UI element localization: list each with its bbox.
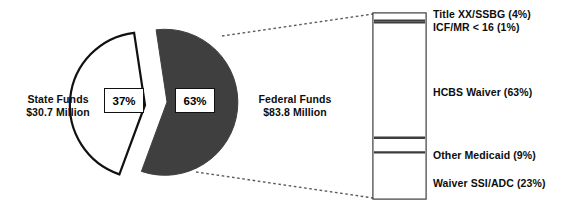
pie-label-federal-funds: Federal Funds $83.8 Million xyxy=(243,93,347,119)
connector-line-bottom xyxy=(196,172,373,198)
pie-percent-box-state-funds: 37% xyxy=(104,88,144,113)
bar-label-icf-mr-under-16: ICF/MR < 16 (1%) xyxy=(433,21,520,34)
bar-label-title-xx-ssbg: Title XX/SSBG (4%) xyxy=(433,8,531,21)
pie-label-federal-funds-line2: $83.8 Million xyxy=(243,106,347,119)
pie-label-state-funds: State Funds $30.7 Million xyxy=(6,93,110,119)
pie-label-federal-funds-line1: Federal Funds xyxy=(243,93,347,106)
pie-label-state-funds-line1: State Funds xyxy=(6,93,110,106)
bar-label-waiver-ssi-adc: Waiver SSI/ADC (23%) xyxy=(433,177,545,190)
bar-label-hcbs-waiver: HCBS Waiver (63%) xyxy=(433,86,532,99)
bar-segment-hcbs-waiver[interactable] xyxy=(374,23,426,138)
connector-line-top xyxy=(222,14,373,36)
bar-segment-waiver-ssi-adc[interactable] xyxy=(374,153,426,199)
pie-percent-box-federal-funds: 63% xyxy=(175,88,215,113)
funding-sources-figure: State Funds $30.7 Million Federal Funds … xyxy=(0,0,570,212)
bar-segment-other-medicaid[interactable] xyxy=(374,138,426,153)
bar-label-other-medicaid: Other Medicaid (9%) xyxy=(433,149,536,162)
pie-label-state-funds-line2: $30.7 Million xyxy=(6,106,110,119)
